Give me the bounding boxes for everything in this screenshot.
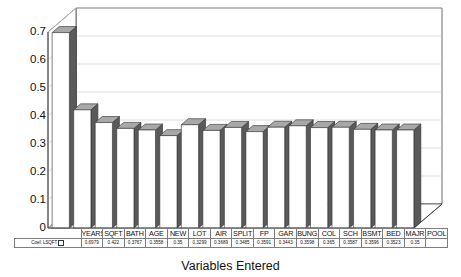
- table-row-headers: YEARSSQFTBATHAGENEWLOTAIRSPLITFPGARBUNGC…: [15, 229, 448, 239]
- x-axis-title: Variables Entered: [0, 259, 461, 273]
- table-value-cell: 0.3689: [210, 239, 232, 248]
- table-category-header: AGE: [146, 229, 168, 239]
- bar-face: [95, 123, 112, 228]
- table-category-header: COL: [318, 229, 340, 239]
- bar-chart-figure: Reg. Coeff. (elasticity) 0.70.60.50.40.3…: [0, 0, 461, 277]
- bar-face: [74, 110, 91, 228]
- table-category-header: SPLIT: [232, 229, 254, 239]
- legend-swatch: [58, 240, 64, 246]
- bar-face: [117, 128, 134, 228]
- table-value-cell: 0.35: [404, 239, 426, 248]
- table-value-cell: 0.3485: [232, 239, 254, 248]
- table-category-header: BED: [383, 229, 405, 239]
- table-category-header: SCH: [340, 229, 362, 239]
- bar-face: [332, 127, 349, 228]
- bar-face: [224, 127, 241, 228]
- bar-face: [52, 33, 69, 228]
- table-category-header: BATH: [124, 229, 146, 239]
- table-category-header: YEARS: [81, 229, 103, 239]
- bar-face: [375, 130, 392, 228]
- table-value-cell: 0.422: [103, 239, 125, 248]
- table-category-header: NEW: [167, 229, 189, 239]
- table-value-cell: 0.3558: [146, 239, 168, 248]
- bar-face: [138, 130, 155, 228]
- table-value-cell: 0.3596: [361, 239, 383, 248]
- bar-face: [246, 132, 263, 228]
- bar-side: [414, 124, 421, 228]
- bar-face: [267, 127, 284, 228]
- bar-face: [311, 128, 328, 228]
- bar-face: [160, 136, 177, 228]
- table-value-cell: 0.3598: [296, 239, 318, 248]
- bar-face: [289, 126, 306, 228]
- table-value-cell: [426, 239, 448, 248]
- legend-label-text: Coef. LSQFT: [31, 240, 57, 245]
- table-category-header: SQFT: [103, 229, 125, 239]
- table-value-cell: 0.3591: [253, 239, 275, 248]
- table-value-cell: 0.6979: [81, 239, 103, 248]
- table-category-header: BSMT: [361, 229, 383, 239]
- table-value-cell: 0.3523: [383, 239, 405, 248]
- table-category-header: MAJR: [404, 229, 426, 239]
- table-category-header: LOT: [189, 229, 211, 239]
- bar-face: [181, 125, 198, 228]
- bar-face: [203, 130, 220, 228]
- table-row-values: Coef. LSQFT0.69790.4220.37670.35580.350.…: [15, 239, 448, 248]
- bar-face: [397, 130, 414, 228]
- table-value-cell: 0.3767: [124, 239, 146, 248]
- data-value-table: YEARSSQFTBATHAGENEWLOTAIRSPLITFPGARBUNGC…: [14, 228, 448, 248]
- table-category-header: POOL: [426, 229, 448, 239]
- table-value-cell: 0.3443: [275, 239, 297, 248]
- table-value-cell: 0.3299: [189, 239, 211, 248]
- table-category-header: FP: [253, 229, 275, 239]
- table-corner-spacer: [15, 229, 82, 239]
- table-category-header: GAR: [275, 229, 297, 239]
- table-value-cell: 0.365: [318, 239, 340, 248]
- table-value-cell: 0.35: [167, 239, 189, 248]
- table-value-cell: 0.3587: [340, 239, 362, 248]
- legend-label-cell: Coef. LSQFT: [15, 239, 82, 248]
- table-category-header: AIR: [210, 229, 232, 239]
- table-category-header: BUNG: [296, 229, 318, 239]
- bar-face: [354, 129, 371, 228]
